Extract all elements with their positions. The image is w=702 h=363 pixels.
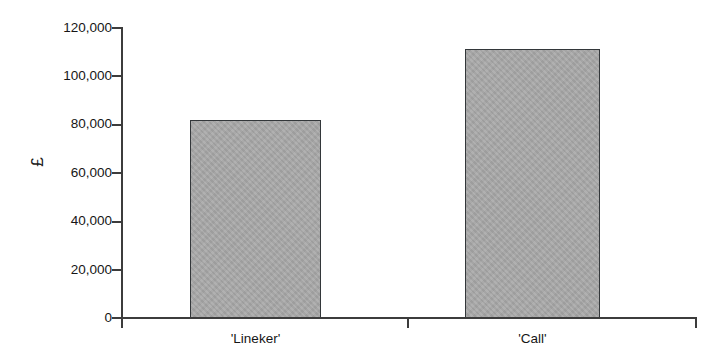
y-tick-label: 120,000 [26, 21, 112, 35]
y-axis-tick-labels: 120,000 100,000 80,000 60,000 40,000 20,… [26, 0, 112, 363]
x-category-label-lineker: 'Lineker' [190, 332, 321, 346]
bar-call [465, 49, 600, 318]
x-category-label-call: 'Call' [465, 332, 600, 346]
y-axis-tick [112, 75, 122, 77]
y-tick-label: 80,000 [26, 117, 112, 131]
x-axis-tick [695, 319, 697, 328]
y-axis-tick [112, 172, 122, 174]
y-tick-label: 60,000 [26, 166, 112, 180]
y-tick-label: 40,000 [26, 214, 112, 228]
x-axis-tick [121, 319, 123, 328]
y-tick-label: 20,000 [26, 263, 112, 277]
y-axis-tick [112, 124, 122, 126]
y-axis-tick [112, 269, 122, 271]
y-tick-label: 100,000 [26, 69, 112, 83]
x-axis-tick [407, 319, 409, 328]
y-tick-label: 0 [26, 311, 112, 325]
y-axis-tick [112, 221, 122, 223]
y-axis-tick [112, 27, 122, 29]
bar-lineker [190, 120, 321, 318]
bar-chart: £ 120,000 100,000 80,000 60,000 40,000 2… [0, 0, 702, 363]
x-axis-line [121, 317, 697, 319]
